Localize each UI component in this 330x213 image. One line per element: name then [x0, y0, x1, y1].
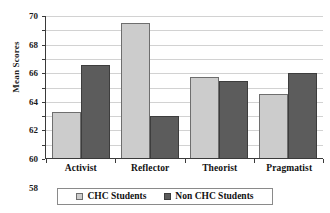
y-tick-mark: 62	[42, 73, 45, 74]
bar-group	[254, 16, 323, 158]
bar[interactable]	[259, 94, 288, 158]
x-category-label: Theorist	[185, 163, 255, 173]
bar[interactable]	[150, 116, 179, 158]
y-tick-mark: 56	[42, 116, 45, 117]
y-tick-label: 56	[29, 211, 38, 213]
x-axis-line	[45, 158, 323, 159]
y-axis-title: Mean Scores	[11, 7, 21, 127]
x-category-label: Pragmatist	[255, 163, 325, 173]
legend-item-non-chc: Non CHC Students	[164, 191, 253, 201]
chart-legend: CHC Students Non CHC Students	[57, 188, 273, 205]
bar[interactable]	[288, 73, 317, 158]
x-axis-category-labels: ActivistReflectorTheoristPragmatist	[46, 163, 324, 173]
legend-swatch-chc-icon	[76, 193, 83, 200]
y-tick-label: 68	[29, 40, 38, 50]
y-tick-mark: 60	[42, 88, 45, 89]
y-tick-label: 60	[29, 154, 38, 164]
y-tick-label: 66	[29, 68, 38, 78]
y-tick-mark: 66	[42, 45, 45, 46]
y-tick-mark: 68	[42, 30, 45, 31]
y-tick-label: 58	[29, 183, 38, 193]
bar-chart: Mean Scores 7068666462605856545250 Activ…	[0, 0, 330, 213]
x-category-label: Activist	[46, 163, 116, 173]
bar[interactable]	[219, 81, 248, 158]
legend-item-chc: CHC Students	[76, 191, 146, 201]
y-tick-label: 70	[29, 11, 38, 21]
y-tick-mark: 50	[42, 159, 45, 160]
bar-group	[46, 16, 115, 158]
legend-swatch-non-chc-icon	[164, 193, 171, 200]
y-tick-mark: 70	[42, 16, 45, 17]
y-tick-mark: 52	[42, 145, 45, 146]
y-tick-label: 62	[29, 125, 38, 135]
legend-label-chc: CHC Students	[87, 191, 146, 201]
bar[interactable]	[52, 112, 81, 158]
bar[interactable]	[190, 77, 219, 159]
y-tick-mark: 58	[42, 102, 45, 103]
y-tick-mark: 54	[42, 130, 45, 131]
bar-group	[185, 16, 254, 158]
plot-area: 7068666462605856545250	[45, 16, 323, 159]
bar[interactable]	[81, 65, 110, 158]
bar-group	[115, 16, 184, 158]
bar[interactable]	[121, 23, 150, 158]
bar-groups	[46, 16, 323, 158]
legend-label-non-chc: Non CHC Students	[175, 191, 253, 201]
y-tick-label: 64	[29, 97, 38, 107]
y-tick-mark: 64	[42, 59, 45, 60]
x-category-label: Reflector	[116, 163, 186, 173]
